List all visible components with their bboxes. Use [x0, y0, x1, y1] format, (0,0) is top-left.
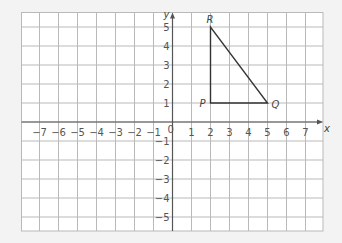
x-tick-label: −4 — [89, 127, 104, 138]
x-tick-label: −2 — [127, 127, 142, 138]
x-tick-label: −5 — [70, 127, 85, 138]
y-tick-label: −2 — [155, 155, 170, 166]
vertex-label-p: P — [200, 98, 207, 109]
y-tick-label: 3 — [163, 60, 169, 71]
x-tick-label: −6 — [51, 127, 66, 138]
y-tick-label: −1 — [155, 136, 170, 147]
y-tick-label: 1 — [163, 98, 169, 109]
vertex-label-r: R — [207, 14, 214, 25]
x-tick-label: 7 — [302, 127, 308, 138]
y-tick-label: 4 — [163, 41, 169, 52]
x-tick-label: −3 — [108, 127, 123, 138]
y-tick-label: −3 — [155, 174, 170, 185]
x-tick-label: 6 — [283, 127, 289, 138]
x-tick-label: 3 — [226, 127, 232, 138]
coordinate-grid: xy −7−6−5−4−3−2−1123456754321−1−2−3−4−50… — [0, 0, 342, 243]
y-tick-label: −5 — [155, 212, 170, 223]
x-tick-label: 1 — [188, 127, 194, 138]
origin-label: 0 — [168, 124, 174, 135]
x-tick-label: 4 — [245, 127, 251, 138]
y-tick-label: −4 — [155, 193, 170, 204]
x-tick-label: 5 — [264, 127, 270, 138]
x-axis-label: x — [323, 123, 330, 134]
x-tick-label: −7 — [32, 127, 47, 138]
y-tick-label: 5 — [163, 22, 169, 33]
vertex-label-q: Q — [272, 99, 280, 110]
y-axis-label: y — [163, 9, 171, 20]
y-tick-label: 2 — [163, 79, 169, 90]
x-tick-label: 2 — [207, 127, 213, 138]
